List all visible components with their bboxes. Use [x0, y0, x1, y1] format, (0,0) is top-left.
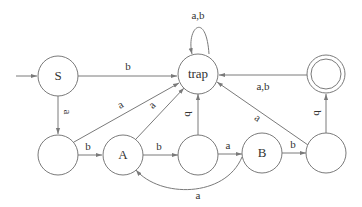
edge-label: a: [62, 110, 74, 115]
state-q3: [178, 135, 218, 175]
edge-q1-A: b: [78, 140, 102, 155]
state-label: S: [54, 68, 61, 83]
edge-q3-B: a: [218, 139, 242, 154]
edge-S-trap: b: [78, 60, 177, 76]
state-accept: [307, 55, 345, 93]
state-q1: [38, 135, 78, 175]
edge-q5-acc: b: [312, 94, 326, 133]
state-S: S: [38, 56, 78, 96]
edge-label: b: [183, 111, 195, 117]
edge-A-trap: a: [136, 88, 184, 139]
state-label: B: [258, 145, 267, 160]
edge-label: b: [156, 140, 162, 152]
edge-label: b: [312, 110, 324, 116]
state-trap: trap: [178, 54, 218, 94]
edge-label: b: [290, 138, 296, 150]
edge-label: a,b: [191, 9, 205, 21]
edge-q1-trap: a: [74, 83, 179, 142]
edge-acc-trap: a,b: [219, 75, 307, 92]
state-B: B: [242, 133, 282, 173]
edge-label: a: [146, 99, 158, 111]
edge-label: a: [226, 139, 231, 151]
edge-label: a: [196, 189, 201, 201]
state-label: trap: [188, 66, 208, 81]
edge-B-q5: b: [282, 138, 306, 153]
edge-label: a: [115, 98, 125, 111]
edge-label: a: [253, 111, 264, 124]
state-A: A: [103, 135, 143, 175]
edge-S-q1: a: [58, 96, 74, 134]
state-q5: [306, 133, 346, 173]
edge-label: b: [125, 60, 131, 72]
edge-trap-self-loop: a,b: [191, 9, 209, 54]
edge-label: a,b: [256, 80, 270, 92]
state-label: A: [118, 147, 128, 162]
automaton-diagram: b a a,b a,b b a a b b a a: [0, 0, 362, 207]
edge-label: b: [85, 140, 91, 152]
edge-A-q3: b: [143, 140, 178, 155]
edge-q3-trap: b: [183, 94, 198, 135]
